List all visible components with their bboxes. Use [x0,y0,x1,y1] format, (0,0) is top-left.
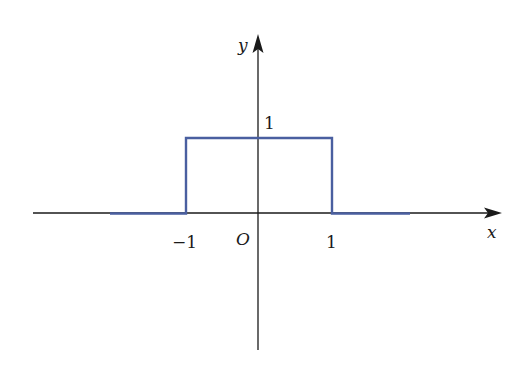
pulse-curve [110,138,410,214]
x-tick-pos1: 1 [326,232,337,252]
y-tick-1: 1 [264,113,275,133]
chart-canvas: y x O −1 1 1 [0,0,527,370]
y-axis-label: y [237,35,248,55]
x-tick-neg1: −1 [172,232,197,252]
origin-label: O [236,229,250,249]
x-axis-label: x [487,222,497,242]
